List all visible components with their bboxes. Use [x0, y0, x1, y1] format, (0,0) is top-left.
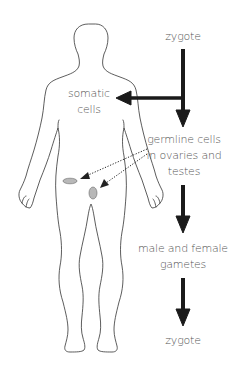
germline-line1: germline cells [143, 132, 225, 148]
ovary-shape [63, 178, 77, 184]
arrowhead-germline [176, 110, 190, 127]
arrowhead-zygote [176, 309, 190, 326]
dotted-arrowhead-ovary [80, 172, 90, 179]
dotted-arrows [86, 149, 147, 183]
arrowhead-gametes [176, 216, 190, 233]
label-somatic-cells: somatic cells [64, 86, 114, 118]
label-gametes: male and female gametes [138, 241, 228, 273]
germline-line2: in ovaries and [143, 148, 225, 164]
gametes-line1: male and female [138, 241, 228, 257]
somatic-line2: cells [64, 102, 114, 118]
label-zygote-top: zygote [163, 29, 203, 45]
diagram-canvas [0, 0, 244, 379]
label-zygote-bottom: zygote [163, 333, 203, 349]
dotted-arrowhead-testis [100, 179, 109, 188]
somatic-line1: somatic [64, 86, 114, 102]
arrowhead-somatic [116, 91, 131, 105]
label-germline-cells: germline cells in ovaries and testes [143, 132, 225, 180]
solid-arrows [116, 49, 190, 326]
gametes-line2: gametes [138, 257, 228, 273]
testis-shape [89, 187, 97, 199]
germline-line3: testes [143, 164, 225, 180]
